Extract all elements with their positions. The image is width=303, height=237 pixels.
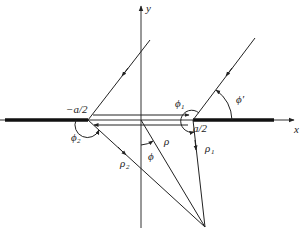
rho-label: ρ — [163, 135, 169, 147]
svg-text:1: 1 — [181, 103, 185, 111]
rho2-label: ρ 2 — [119, 157, 130, 171]
rho-ray — [141, 120, 205, 227]
y-axis-label: y — [145, 2, 151, 14]
svg-text:2: 2 — [77, 137, 81, 145]
right-edge-label: a/2 — [193, 122, 208, 134]
svg-text:ρ: ρ — [204, 142, 210, 154]
phi-arc — [141, 141, 153, 145]
rho2-ray — [88, 120, 205, 227]
incident-ray-left-arrow — [122, 68, 128, 76]
incident-ray-right-arrow — [226, 68, 232, 76]
rho1-ray — [193, 120, 205, 227]
phi-prime-label: ϕ′ — [236, 93, 245, 105]
phi-label: ϕ — [148, 150, 154, 162]
x-axis-label: x — [293, 123, 299, 135]
incident-ray-right — [193, 38, 255, 120]
phi1-label: ϕ 1 — [175, 97, 185, 111]
phi-prime-arc — [216, 90, 232, 120]
phi2-label: ϕ 2 — [71, 131, 81, 145]
svg-text:ρ: ρ — [119, 157, 125, 169]
rho2-arrow — [118, 147, 126, 155]
svg-text:1: 1 — [211, 148, 215, 156]
phi2-arc — [75, 120, 99, 138]
svg-text:2: 2 — [126, 163, 130, 171]
left-edge-label: −a/2 — [66, 103, 88, 115]
rho1-label: ρ 1 — [204, 142, 215, 156]
slit-diffraction-diagram: y x −a/2 a/2 ϕ 2 ϕ ϕ 1 ϕ′ ρ ρ 1 ρ 2 — [0, 0, 303, 237]
